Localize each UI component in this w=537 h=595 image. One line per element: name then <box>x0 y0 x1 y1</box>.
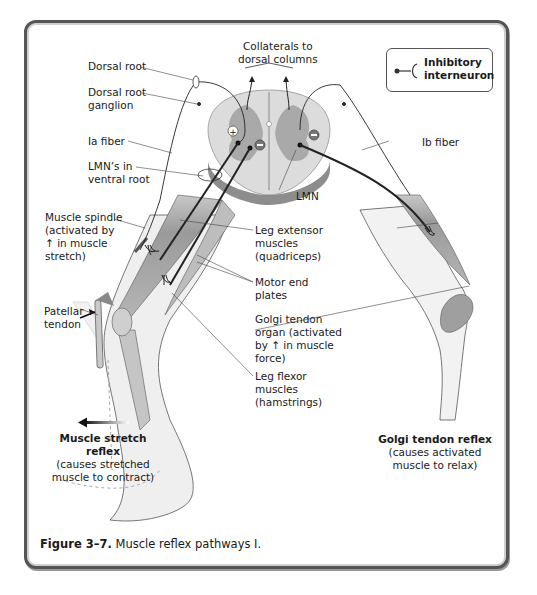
spinal-cord-cross-section: + <box>208 63 330 205</box>
figure-caption-text: Muscle reflex pathways I. <box>115 537 261 551</box>
label-collaterals: Collaterals to dorsal columns <box>238 40 318 66</box>
excitatory-symbol: + <box>229 127 237 137</box>
label-muscle-spindle: Muscle spindle (activated by ↑ in muscle… <box>45 211 122 263</box>
label-leg-extensor: Leg extensor muscles (quadriceps) <box>255 224 323 263</box>
label-ib-fiber: Ib fiber <box>422 136 459 149</box>
stretch-reflex-title: Muscle stretch reflex <box>48 432 158 458</box>
legend-label: Inhibitory interneuron <box>424 56 494 82</box>
stretch-reflex-description: (causes stretched muscle to contract) <box>38 458 168 484</box>
figure-caption: Figure 3–7. Muscle reflex pathways I. <box>40 537 261 551</box>
inhibitory-interneuron-icon <box>389 51 423 91</box>
label-lmn: LMN <box>296 190 319 203</box>
label-dorsal-root-ganglion: Dorsal root ganglion <box>88 86 146 112</box>
label-motor-end-plates: Motor end plates <box>255 276 308 302</box>
label-golgi-tendon-organ: Golgi tendon organ (activated by ↑ in mu… <box>255 313 342 365</box>
label-ia-fiber: Ia fiber <box>88 135 125 148</box>
legend-line-2: interneuron <box>424 69 494 82</box>
label-dorsal-root: Dorsal root <box>88 60 146 73</box>
label-leg-flexor: Leg flexor muscles (hamstrings) <box>255 370 322 409</box>
golgi-reflex-description: (causes activated muscle to relax) <box>370 446 500 472</box>
label-patellar-tendon: Patellar tendon <box>44 305 83 331</box>
label-lmn-ventral-root: LMN’s in ventral root <box>88 160 150 186</box>
figure-number: Figure 3–7. <box>40 537 112 551</box>
golgi-reflex-title: Golgi tendon reflex <box>370 433 500 446</box>
right-leg <box>360 195 473 420</box>
legend-line-1: Inhibitory <box>424 56 494 69</box>
legend-box: Inhibitory interneuron <box>386 48 493 92</box>
